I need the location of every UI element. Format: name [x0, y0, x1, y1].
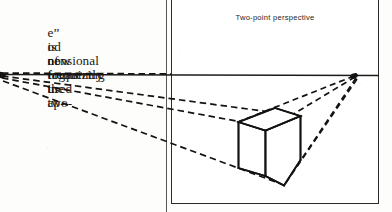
word: nensional — [48, 53, 99, 68]
body-text-column: e” is now frequently used od of organizi… — [0, 0, 163, 52]
figure-caption: Two-point perspective — [171, 13, 379, 22]
figure-border-box — [171, 0, 379, 204]
word: two- — [48, 95, 73, 110]
body-text-line-3-inner: nensional forms in two- — [20, 40, 183, 124]
body-text-line-3: nensional forms in two- — [0, 26, 163, 138]
word: in — [48, 81, 58, 96]
column-rule-divider — [166, 0, 167, 212]
word: forms — [48, 67, 79, 82]
scanned-page: e” is now frequently used od of organizi… — [0, 0, 392, 212]
